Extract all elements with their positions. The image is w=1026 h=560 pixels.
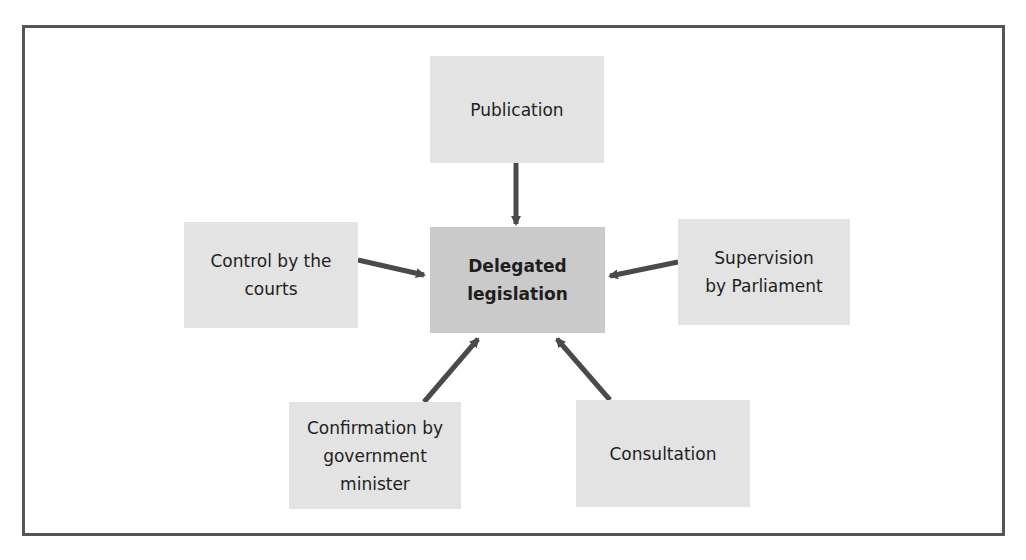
node-publication: Publication [430, 56, 604, 163]
node-supervision-by-parliament: Supervision by Parliament [678, 219, 850, 325]
arrow-parliament-to-center [610, 262, 678, 276]
arrow-consultation-to-center [557, 339, 610, 400]
node-consultation: Consultation [576, 400, 750, 507]
arrow-courts-to-center [358, 260, 424, 275]
node-confirmation-by-government-minister: Confirmation by government minister [289, 402, 461, 509]
arrow-minister-to-center [424, 339, 478, 402]
node-control-by-the-courts: Control by the courts [184, 222, 358, 328]
node-delegated-legislation: Delegated legislation [430, 227, 605, 333]
